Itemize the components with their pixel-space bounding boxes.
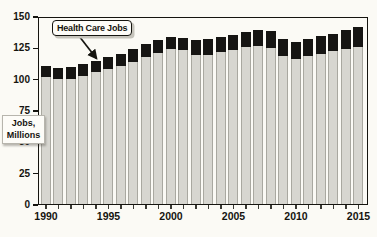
bar-2014-healthcare-segment — [341, 30, 351, 48]
bar-2003-other-segment — [203, 55, 213, 204]
bar-2006-other-segment — [241, 47, 251, 204]
x-tick-mark-1996 — [120, 205, 122, 209]
x-tick-mark-2011 — [308, 205, 310, 209]
y-tick-label-100: 100 — [2, 74, 30, 86]
chart-jobs-millions: 0255075100125150199019952000200520102015… — [0, 0, 377, 237]
bar-1996-other-segment — [116, 66, 126, 204]
x-tick-label-2015: 2015 — [342, 210, 376, 222]
bar-2013-other-segment — [328, 51, 338, 204]
y-tick-label-125: 125 — [2, 42, 30, 54]
bar-1991-other-segment — [53, 79, 63, 204]
x-tick-label-2000: 2000 — [154, 210, 188, 222]
y-tick-label-0: 0 — [2, 199, 30, 211]
bar-2011-other-segment — [303, 56, 313, 204]
bar-2000-healthcare-segment — [166, 37, 176, 50]
bar-2010-healthcare-segment — [291, 42, 301, 59]
bar-1995-other-segment — [103, 69, 113, 204]
x-tick-label-1995: 1995 — [92, 210, 126, 222]
x-tick-mark-1995 — [108, 205, 110, 209]
bar-2009-healthcare-segment — [278, 39, 288, 57]
bar-2012-other-segment — [316, 54, 326, 204]
bar-2010-other-segment — [291, 59, 301, 204]
y-axis-label: Jobs, Millions — [2, 115, 45, 144]
bar-2008-healthcare-segment — [266, 31, 276, 48]
x-tick-mark-2006 — [245, 205, 247, 209]
bar-1995-healthcare-segment — [103, 57, 113, 70]
bar-2001-other-segment — [178, 50, 188, 204]
x-tick-mark-2009 — [283, 205, 285, 209]
bar-2006-healthcare-segment — [241, 32, 251, 47]
bar-2012-healthcare-segment — [316, 36, 326, 54]
bar-2004-other-segment — [216, 52, 226, 204]
bar-2002-healthcare-segment — [191, 40, 201, 55]
y-axis-label-line1: Jobs, — [3, 118, 44, 130]
x-tick-label-2005: 2005 — [217, 210, 251, 222]
x-tick-mark-2015 — [358, 205, 360, 209]
bar-1994-healthcare-segment — [91, 61, 101, 73]
y-tick-mark-0 — [33, 204, 38, 206]
y-tick-mark-100 — [33, 79, 38, 81]
bar-1992-healthcare-segment — [66, 67, 76, 78]
y-tick-label-150: 150 — [2, 11, 30, 23]
bar-2003-healthcare-segment — [203, 39, 213, 55]
bar-1996-healthcare-segment — [116, 54, 126, 67]
bar-1999-other-segment — [153, 53, 163, 204]
y-tick-mark-75 — [33, 110, 38, 112]
bar-1994-other-segment — [91, 72, 101, 204]
x-tick-mark-2003 — [208, 205, 210, 209]
bar-2007-other-segment — [253, 46, 263, 204]
x-tick-label-2010: 2010 — [279, 210, 313, 222]
bar-2015-healthcare-segment — [353, 27, 363, 46]
bar-2015-other-segment — [353, 47, 363, 204]
bar-1998-other-segment — [141, 57, 151, 204]
x-tick-mark-2008 — [270, 205, 272, 209]
x-tick-label-1990: 1990 — [29, 210, 63, 222]
x-tick-mark-2014 — [345, 205, 347, 209]
bar-2014-other-segment — [341, 49, 351, 204]
y-tick-mark-150 — [33, 16, 38, 18]
bar-1997-other-segment — [128, 62, 138, 204]
x-tick-mark-2013 — [333, 205, 335, 209]
bar-1991-healthcare-segment — [53, 68, 63, 79]
x-tick-mark-1992 — [70, 205, 72, 209]
bar-2002-other-segment — [191, 55, 201, 204]
y-tick-mark-25 — [33, 173, 38, 175]
bar-2009-other-segment — [278, 56, 288, 204]
x-tick-mark-2005 — [233, 205, 235, 209]
x-tick-mark-2002 — [195, 205, 197, 209]
bar-2005-other-segment — [228, 50, 238, 204]
x-tick-mark-1998 — [145, 205, 147, 209]
bar-1998-healthcare-segment — [141, 44, 151, 57]
bar-2000-other-segment — [166, 49, 176, 204]
x-tick-mark-2004 — [220, 205, 222, 209]
bar-1990-healthcare-segment — [41, 66, 51, 77]
bar-2008-other-segment — [266, 48, 276, 204]
annotation-health-care-jobs: Health Care Jobs — [52, 20, 132, 36]
x-tick-mark-1993 — [83, 205, 85, 209]
bar-1992-other-segment — [66, 79, 76, 204]
x-tick-mark-1990 — [45, 205, 47, 209]
y-axis-label-line2: Millions — [3, 130, 44, 142]
x-tick-mark-1997 — [133, 205, 135, 209]
bar-2005-healthcare-segment — [228, 35, 238, 50]
bar-1997-healthcare-segment — [128, 49, 138, 62]
x-tick-mark-2012 — [320, 205, 322, 209]
bar-1993-healthcare-segment — [78, 64, 88, 75]
bar-2013-healthcare-segment — [328, 34, 338, 52]
x-tick-mark-1999 — [158, 205, 160, 209]
bar-2004-healthcare-segment — [216, 37, 226, 52]
x-tick-mark-2007 — [258, 205, 260, 209]
bar-2001-healthcare-segment — [178, 38, 188, 50]
y-tick-label-25: 25 — [2, 168, 30, 180]
x-tick-mark-1994 — [95, 205, 97, 209]
bar-1999-healthcare-segment — [153, 40, 163, 53]
x-tick-mark-2001 — [183, 205, 185, 209]
x-tick-mark-2010 — [295, 205, 297, 209]
x-tick-mark-1991 — [58, 205, 60, 209]
bar-2011-healthcare-segment — [303, 39, 313, 56]
x-tick-mark-2000 — [170, 205, 172, 209]
bar-1993-other-segment — [78, 76, 88, 204]
bar-2007-healthcare-segment — [253, 30, 263, 46]
plot-area — [38, 17, 368, 205]
y-tick-mark-125 — [33, 48, 38, 50]
